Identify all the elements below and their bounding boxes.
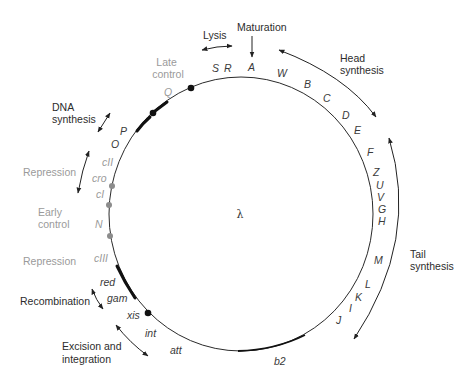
gene-r: R (224, 62, 232, 74)
arrow-recombination (92, 289, 103, 309)
marker-n (107, 233, 113, 239)
label-tail-line2: synthesis (410, 260, 454, 272)
gene-j: J (335, 314, 342, 326)
label-recombination: Recombination (20, 295, 90, 307)
gene-gam: gam (107, 292, 128, 304)
gene-cii: cII (102, 156, 113, 168)
marker-cro (109, 183, 115, 189)
gene-s: S (212, 62, 219, 74)
arrow-repression-upper (78, 151, 89, 193)
gene-ciii: cIII (94, 252, 108, 264)
lambda-genome-map: λ S R A W B C D E F Z U V G H M L K I J … (0, 0, 470, 381)
gene-xis: xis (126, 309, 141, 321)
label-late-line2: control (152, 68, 184, 80)
gene-w: W (277, 67, 288, 79)
gene-p: P (120, 125, 127, 137)
label-excision-integration: Excision and integration (62, 340, 124, 365)
gene-cro: cro (92, 172, 107, 184)
gene-q: Q (164, 86, 172, 98)
label-late-line1: Late (156, 56, 177, 68)
gene-g: G (378, 203, 386, 215)
label-head-synthesis: Head synthesis (340, 52, 384, 76)
label-repression-lower: Repression (23, 255, 76, 267)
label-dna-synthesis: DNA synthesis (52, 101, 96, 125)
label-maturation: Maturation (237, 21, 287, 33)
label-excision-line1: Excision and (62, 340, 122, 352)
gene-i: I (349, 302, 352, 314)
thick-segment-op (137, 117, 150, 131)
arrow-lysis (202, 46, 232, 50)
label-tail-synthesis: Tail synthesis (410, 248, 454, 272)
gene-m: M (374, 254, 383, 266)
center-lambda-label: λ (237, 208, 244, 221)
arrow-dna-synthesis (98, 113, 110, 132)
label-early-line1: Early (38, 206, 63, 218)
gene-d: D (342, 109, 350, 121)
label-repression-upper: Repression (23, 166, 76, 178)
label-early-control: Early control (38, 206, 70, 230)
thick-segment-q (155, 102, 167, 111)
gene-c: C (323, 92, 331, 104)
gene-l: L (365, 278, 371, 290)
gene-f: F (367, 146, 374, 158)
gene-b: B (304, 78, 311, 90)
gene-e: E (354, 124, 362, 136)
marker-q (150, 110, 157, 117)
gene-att: att (170, 344, 183, 356)
gene-n: N (95, 218, 103, 230)
gene-v: V (377, 191, 385, 203)
gene-b2: b2 (274, 355, 286, 367)
marker-xis (145, 310, 152, 317)
label-head-line2: synthesis (340, 64, 384, 76)
gene-k: K (355, 291, 363, 303)
label-late-control: Late control (152, 56, 184, 80)
gene-red: red (100, 276, 116, 288)
marker-late-control (188, 85, 195, 92)
gene-z: Z (372, 166, 380, 178)
gene-int: int (145, 327, 157, 339)
label-tail-line1: Tail (410, 248, 426, 260)
gene-a: A (247, 61, 255, 73)
gene-ci: cI (96, 188, 104, 200)
gene-u: U (376, 179, 384, 191)
label-dna-line2: synthesis (52, 113, 96, 125)
label-head-line1: Head (340, 52, 365, 64)
marker-ci (106, 202, 112, 208)
thick-segment-b2 (238, 335, 305, 351)
label-early-line2: control (38, 218, 70, 230)
label-excision-line2: integration (62, 353, 111, 365)
label-dna-line1: DNA (52, 101, 74, 113)
gene-o: O (111, 138, 119, 150)
gene-h: H (378, 215, 386, 227)
label-lysis: Lysis (203, 29, 227, 41)
